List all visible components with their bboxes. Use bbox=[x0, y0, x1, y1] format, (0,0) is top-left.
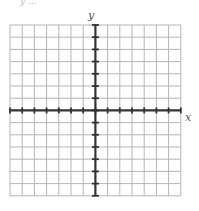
y-axis-label: y bbox=[88, 9, 94, 22]
x-axis-label: x bbox=[185, 111, 191, 124]
coordinate-plane bbox=[0, 0, 199, 211]
